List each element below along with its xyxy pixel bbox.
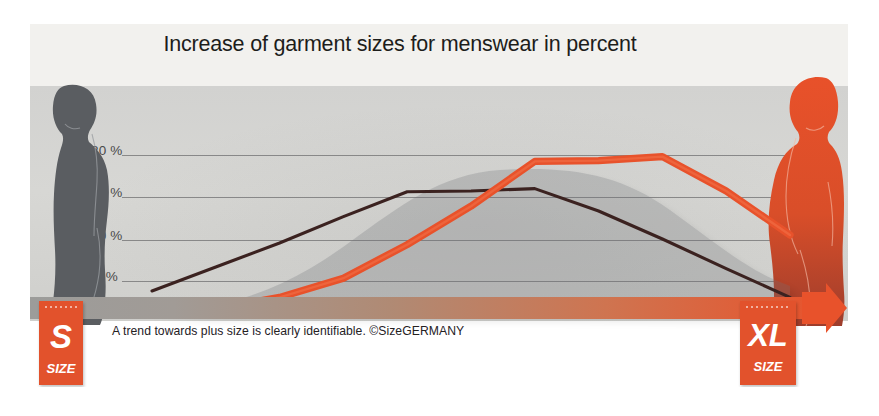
infographic-root: Increase of garment sizes for menswear i… bbox=[0, 0, 879, 416]
tag-perforation-right bbox=[746, 306, 790, 308]
size-tag-small-sub: SIZE bbox=[39, 362, 83, 375]
slim-male-silhouette bbox=[34, 78, 126, 330]
gridline-15 bbox=[122, 197, 790, 198]
size-tag-xl-label: XL bbox=[740, 320, 796, 351]
infographic-card: Increase of garment sizes for menswear i… bbox=[30, 24, 848, 387]
size-progression-arrow bbox=[30, 297, 848, 319]
tag-perforation-left bbox=[45, 306, 77, 308]
size-tag-xl: XL SIZE bbox=[740, 301, 796, 385]
page-title: Increase of garment sizes for menswear i… bbox=[30, 32, 770, 57]
chart-panel bbox=[30, 86, 848, 321]
size-tag-small: S SIZE bbox=[39, 301, 83, 385]
panel-vignette bbox=[30, 86, 848, 321]
arrow-head-icon bbox=[800, 282, 848, 334]
size-tag-xl-sub: SIZE bbox=[740, 360, 796, 373]
gridline-20 bbox=[122, 155, 790, 156]
title-band: Increase of garment sizes for menswear i… bbox=[30, 24, 848, 86]
gridline-5 bbox=[122, 281, 790, 282]
size-tag-small-label: S bbox=[39, 320, 83, 353]
chart-caption: A trend towards plus size is clearly ide… bbox=[112, 324, 464, 338]
gridline-10 bbox=[122, 240, 790, 241]
